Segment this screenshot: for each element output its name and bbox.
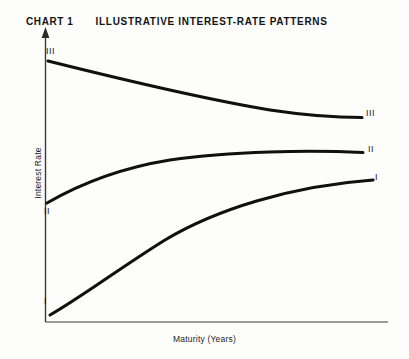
chart-plot bbox=[0, 0, 409, 359]
y-axis-label: Interest Rate bbox=[33, 128, 43, 218]
curve-label-i-right: I bbox=[375, 172, 378, 182]
x-axis-label: Maturity (Years) bbox=[0, 334, 409, 344]
curve-ii bbox=[47, 151, 363, 203]
curve-label-iii-right: III bbox=[366, 108, 375, 118]
curve-label-iii-left: III bbox=[46, 46, 55, 56]
curve-label-ii-right: II bbox=[368, 144, 374, 154]
curve-label-ii-left: II bbox=[44, 206, 50, 216]
curve-label-i-left: I bbox=[44, 296, 47, 306]
chart-page: CHART 1 ILLUSTRATIVE INTEREST-RATE PATTE… bbox=[0, 0, 409, 359]
curve-iii bbox=[48, 61, 362, 118]
curve-i bbox=[50, 180, 373, 315]
